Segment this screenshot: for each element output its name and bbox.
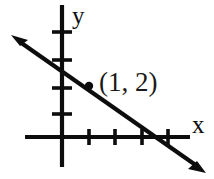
plotted-point-marker	[85, 82, 93, 90]
function-line	[20, 42, 197, 166]
y-axis-label: y	[72, 2, 85, 29]
linear-function-graph: y x (1, 2)	[0, 0, 214, 179]
point-coordinate-label: (1, 2)	[99, 67, 157, 97]
x-axis-label: x	[192, 111, 205, 138]
coordinate-plane-svg: y x (1, 2)	[0, 0, 214, 179]
